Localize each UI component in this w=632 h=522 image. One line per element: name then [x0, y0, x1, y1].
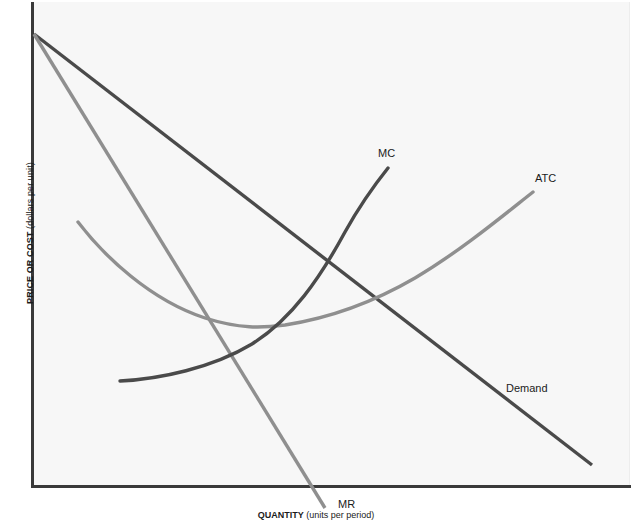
marginal-revenue-curve — [34, 34, 325, 508]
monopoly-graph-figure: MC ATC Demand MR PRICE OR COST (dollars … — [0, 0, 632, 522]
curve-label-demand: Demand — [506, 382, 548, 394]
curve-label-mr: MR — [338, 498, 355, 510]
y-axis-title: PRICE OR COST (dollars per unit) — [25, 133, 35, 333]
curve-label-atc: ATC — [535, 172, 556, 184]
x-axis-title-bold: QUANTITY — [258, 510, 304, 520]
curves-layer — [0, 0, 632, 522]
average-total-cost-curve — [78, 192, 533, 327]
x-axis-title-plain: (units per period) — [304, 510, 375, 520]
y-axis-title-bold: PRICE OR COST — [25, 232, 35, 304]
demand-curve — [34, 34, 592, 465]
x-axis-title: QUANTITY (units per period) — [0, 510, 632, 520]
curve-label-mc: MC — [378, 147, 395, 159]
y-axis-title-plain: (dollars per unit) — [25, 162, 35, 231]
